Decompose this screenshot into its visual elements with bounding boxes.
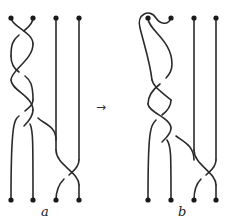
braid-b [139,13,218,203]
braid-a [8,15,81,202]
braid-diagram [0,0,228,222]
panel-label-b: b [178,204,186,219]
panel-label-a: a [41,204,49,219]
transform-arrow-icon: → [96,100,106,114]
